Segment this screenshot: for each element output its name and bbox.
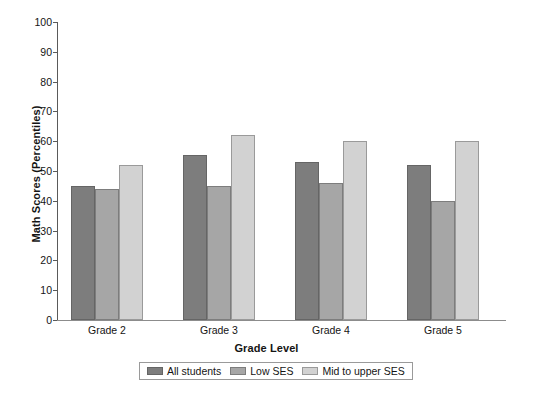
bar-grade-5-low-ses bbox=[431, 201, 455, 320]
y-tick-label: 30 bbox=[20, 226, 52, 236]
x-category-grade-3: Grade 3 bbox=[164, 324, 274, 336]
y-tick-label: 10 bbox=[20, 285, 52, 295]
x-axis-title: Grade Level bbox=[0, 342, 533, 354]
legend-item-mid-to-upper-ses: Mid to upper SES bbox=[302, 366, 404, 377]
y-tick-label: 50 bbox=[20, 166, 52, 176]
chart-legend: All studentsLow SESMid to upper SES bbox=[139, 362, 413, 380]
y-tick-mark bbox=[53, 320, 57, 321]
cropped-caption-sliver bbox=[0, 0, 533, 7]
legend-label: Mid to upper SES bbox=[322, 366, 404, 377]
x-category-grade-2: Grade 2 bbox=[52, 324, 162, 336]
y-tick-label: 20 bbox=[20, 255, 52, 265]
bar-grade-2-low-ses bbox=[95, 189, 119, 320]
bar-grade-3-mid-to-upper-ses bbox=[231, 135, 255, 320]
legend-swatch-icon bbox=[230, 367, 246, 375]
legend-label: All students bbox=[167, 366, 221, 377]
y-tick-mark bbox=[53, 290, 57, 291]
legend-item-low-ses: Low SES bbox=[230, 366, 293, 377]
legend-label: Low SES bbox=[250, 366, 293, 377]
y-tick-mark bbox=[53, 171, 57, 172]
x-axis-line bbox=[57, 320, 506, 321]
bar-grade-3-all-students bbox=[183, 155, 207, 320]
plot-area bbox=[58, 22, 506, 320]
y-tick-mark bbox=[53, 260, 57, 261]
bar-grade-2-mid-to-upper-ses bbox=[119, 165, 143, 320]
y-tick-label: 40 bbox=[20, 196, 52, 206]
bar-grade-3-low-ses bbox=[207, 186, 231, 320]
y-tick-mark bbox=[53, 141, 57, 142]
y-tick-label: 100 bbox=[20, 17, 52, 27]
math-scores-bar-chart: Math Scores (Percentiles) 10090807060504… bbox=[0, 0, 533, 399]
x-category-grade-4: Grade 4 bbox=[276, 324, 386, 336]
y-tick-label: 80 bbox=[20, 77, 52, 87]
y-tick-mark bbox=[53, 111, 57, 112]
bar-grade-4-mid-to-upper-ses bbox=[343, 141, 367, 320]
y-tick-mark bbox=[53, 52, 57, 53]
bar-grade-5-mid-to-upper-ses bbox=[455, 141, 479, 320]
y-tick-mark bbox=[53, 201, 57, 202]
legend-swatch-icon bbox=[302, 367, 318, 375]
y-tick-label: 0 bbox=[20, 315, 52, 325]
legend-swatch-icon bbox=[147, 367, 163, 375]
y-tick-mark bbox=[53, 82, 57, 83]
bar-grade-2-all-students bbox=[71, 186, 95, 320]
bar-grade-4-low-ses bbox=[319, 183, 343, 320]
y-tick-label: 70 bbox=[20, 106, 52, 116]
legend-item-all-students: All students bbox=[147, 366, 221, 377]
bar-grade-5-all-students bbox=[407, 165, 431, 320]
x-category-grade-5: Grade 5 bbox=[388, 324, 498, 336]
y-tick-mark bbox=[53, 22, 57, 23]
bar-grade-4-all-students bbox=[295, 162, 319, 320]
y-tick-label: 90 bbox=[20, 47, 52, 57]
y-tick-mark bbox=[53, 231, 57, 232]
y-tick-label: 60 bbox=[20, 136, 52, 146]
